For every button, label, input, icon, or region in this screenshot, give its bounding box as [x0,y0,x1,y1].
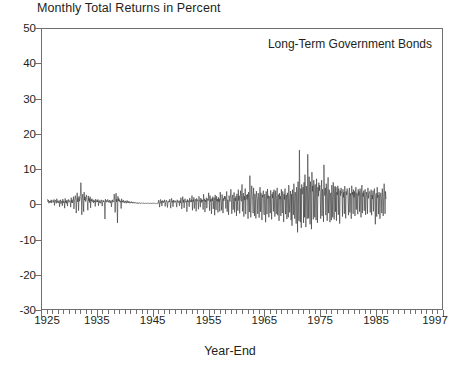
x-tick-minor [175,310,176,314]
y-tick-mark [34,204,41,205]
x-tick-minor [186,310,187,314]
x-tick-minor [119,310,120,314]
y-tick-label: -20 [0,269,36,281]
y-tick-label: 20 [0,128,36,140]
x-tick-minor [343,310,344,314]
x-tick-minor [393,310,394,314]
x-tick-minor [292,310,293,314]
x-tick-minor [130,310,131,314]
x-tick-minor [63,310,64,314]
x-tick-minor [169,310,170,314]
x-tick-minor [398,310,399,314]
x-tick-label: 1985 [363,314,389,326]
x-tick-minor [348,310,349,314]
x-tick-minor [136,310,137,314]
y-tick-label: 30 [0,93,36,105]
x-tick-minor [415,310,416,314]
y-tick-mark [34,275,41,276]
plot-area: Long-Term Government Bonds [41,28,443,310]
y-tick-label: 0 [0,198,36,210]
y-tick-label: 50 [0,22,36,34]
y-tick-label: 10 [0,163,36,175]
series-annotation-label: Long-Term Government Bonds [268,37,432,51]
x-tick-minor [114,310,115,314]
x-axis-title: Year-End [0,344,460,358]
x-tick-minor [75,310,76,314]
x-tick-minor [410,310,411,314]
y-tick-mark [34,310,41,311]
x-tick-label: 1925 [34,314,60,326]
x-tick-minor [192,310,193,314]
x-tick-minor [404,310,405,314]
x-tick-minor [248,310,249,314]
x-tick-minor [354,310,355,314]
x-tick-minor [359,310,360,314]
x-tick-minor [303,310,304,314]
x-tick-minor [287,310,288,314]
y-tick-mark [34,99,41,100]
x-tick-minor [242,310,243,314]
x-tick-minor [225,310,226,314]
x-tick-minor [231,310,232,314]
y-tick-label: -30 [0,304,36,316]
x-tick-minor [298,310,299,314]
y-tick-label: -10 [0,234,36,246]
x-tick-minor [69,310,70,314]
x-tick-label: 1975 [307,314,333,326]
x-tick-label: 1945 [140,314,166,326]
x-tick-label: 1997 [422,314,448,326]
y-tick-mark [34,169,41,170]
y-tick-mark [34,28,41,29]
y-tick-label: 40 [0,57,36,69]
x-tick-label: 1955 [196,314,222,326]
y-tick-mark [34,240,41,241]
x-tick-minor [281,310,282,314]
x-tick-minor [181,310,182,314]
x-tick-minor [80,310,81,314]
x-tick-minor [236,310,237,314]
x-tick-label: 1965 [252,314,278,326]
x-tick-minor [337,310,338,314]
chart-figure: Monthly Total Returns in Percent 5040302… [0,0,460,366]
y-tick-mark [34,63,41,64]
x-tick-minor [125,310,126,314]
y-tick-mark [34,134,41,135]
x-tick-label: 1935 [84,314,110,326]
returns-series-line [42,29,442,309]
